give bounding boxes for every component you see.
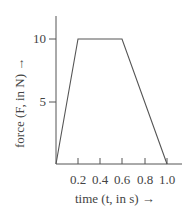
- ytick-label-10: 10: [33, 31, 46, 46]
- xtick-label-0.2: 0.2: [70, 172, 86, 187]
- force-time-chart: 10 5 0.2 0.4 0.6 0.8 1.0 time (t, in s) …: [0, 0, 193, 216]
- xtick-label-0.4: 0.4: [92, 172, 109, 187]
- x-axis-label: time (t, in s) →: [75, 191, 155, 206]
- xtick-label-0.6: 0.6: [114, 172, 131, 187]
- y-axis-label: force (F, in N) →: [12, 58, 27, 148]
- ytick-label-5: 5: [40, 94, 47, 109]
- force-curve: [56, 39, 167, 164]
- xtick-label-0.8: 0.8: [137, 172, 153, 187]
- xtick-label-1.0: 1.0: [159, 172, 175, 187]
